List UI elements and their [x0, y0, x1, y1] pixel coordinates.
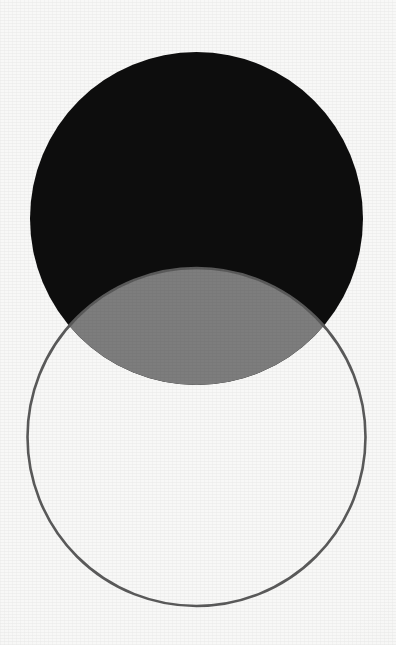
- venn-diagram-figure: Two-circle Venn diagram Two overlapping …: [0, 0, 396, 645]
- venn-diagram-svg: Two-circle Venn diagram Two overlapping …: [0, 0, 396, 645]
